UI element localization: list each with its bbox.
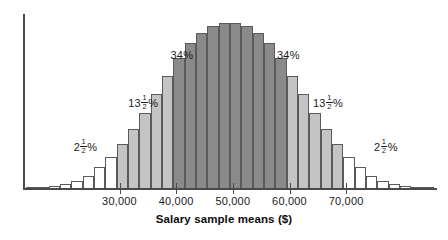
percent-label-left-mid: 1312% [128,94,158,111]
fraction-numerator: 1 [141,94,147,102]
histogram-bar [128,129,139,189]
histogram-bar [83,176,94,189]
percent-label-left-outer: 212% [74,138,98,155]
fraction-denominator: 2 [80,146,86,155]
label-percent-sign: % [87,141,97,153]
label-percent-sign: % [148,97,158,109]
histogram-bar [162,76,173,189]
histogram-bar [219,23,230,189]
histogram-bar [105,157,116,189]
histogram-figure: 30,00040,00050,00060,00070,000 212%1312%… [0,0,448,240]
fraction-denominator: 2 [141,102,147,111]
histogram-bar [173,58,184,189]
fraction-denominator: 2 [326,102,332,111]
label-fraction: 12 [381,138,387,155]
histogram-bar [343,157,354,189]
bars-layer [0,0,448,189]
percent-label-right-inner: 34% [277,48,300,61]
histogram-bar [355,167,366,189]
x-axis-tick [233,183,234,194]
fraction-numerator: 1 [80,138,86,146]
fraction-numerator: 1 [381,138,387,146]
histogram-bar [230,23,241,189]
x-axis-tick-label: 60,000 [272,195,307,207]
x-axis-tick-label: 30,000 [102,195,137,207]
percent-label-left-inner: 34% [171,48,194,61]
label-percent-sign: % [388,141,398,153]
x-axis-tick [120,183,121,194]
x-axis-tick-label: 70,000 [329,195,364,207]
label-fraction: 12 [141,94,147,111]
label-whole-number: 2 [74,141,80,153]
x-axis-tick [176,183,177,194]
x-axis-tick [290,183,291,194]
label-fraction: 12 [80,138,86,155]
percent-label-right-mid: 1312% [313,94,343,111]
label-whole-number: 13 [313,97,326,109]
fraction-denominator: 2 [381,146,387,155]
histogram-bar [321,129,332,189]
x-axis-tick-label: 50,000 [215,195,250,207]
histogram-bar [264,43,275,189]
histogram-bar [253,33,264,189]
histogram-bar [185,43,196,189]
histogram-bar [298,94,309,189]
x-axis-tick-label: 40,000 [159,195,194,207]
fraction-numerator: 1 [326,94,332,102]
label-whole-number: 13 [128,97,141,109]
histogram-bar [287,76,298,189]
label-percent-sign: % [290,49,300,61]
percent-label-right-outer: 212% [374,138,398,155]
histogram-bar [94,167,105,189]
label-whole-number: 2 [374,141,380,153]
histogram-bar [207,26,218,189]
y-axis-spine [23,14,25,189]
histogram-bar [366,176,377,189]
label-fraction: 12 [326,94,332,111]
histogram-bar [332,144,343,189]
label-whole-number: 34 [277,49,290,61]
x-axis-title: Salary sample means ($) [0,213,448,225]
histogram-bar [196,33,207,189]
histogram-bar [139,113,150,189]
label-whole-number: 34 [171,49,184,61]
label-percent-sign: % [333,97,343,109]
histogram-bar [241,26,252,189]
histogram-bar [309,113,320,189]
plot-area: 30,00040,00050,00060,00070,000 212%1312%… [0,0,448,240]
label-percent-sign: % [183,49,193,61]
histogram-bar [117,144,128,189]
histogram-bar [275,58,286,189]
x-axis-tick [346,183,347,194]
x-axis-spine [23,188,437,190]
